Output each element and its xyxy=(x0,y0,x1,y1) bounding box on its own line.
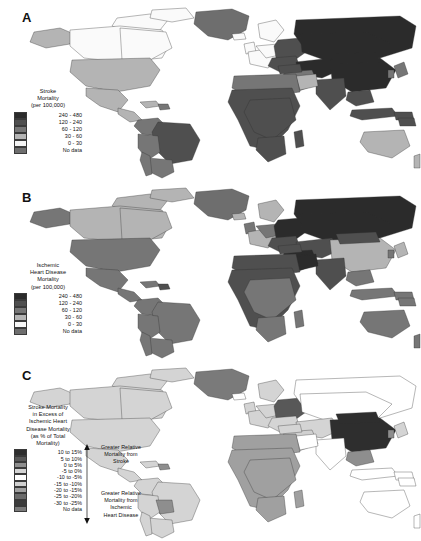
legend-item: No data xyxy=(14,147,82,154)
legend-label: 120 - 240 xyxy=(30,300,82,307)
panel-b: B xyxy=(0,180,421,360)
legend-swatch xyxy=(14,328,27,335)
legend-classes-c: 10 to 15% 5 to 10% 0 to 5% -5 to 0% -10 … xyxy=(14,449,82,512)
legend-label: 120 - 240 xyxy=(30,119,82,126)
legend-swatch xyxy=(14,133,27,140)
legend-swatch xyxy=(14,321,27,328)
legend-swatch xyxy=(14,307,27,314)
legend-item: 30 - 60 xyxy=(14,314,82,321)
legend-label: 60 - 120 xyxy=(30,307,82,314)
legend-label: No data xyxy=(30,328,82,335)
legend-title-a: Stroke Mortality (per 100,000) xyxy=(14,88,82,110)
legend-label: No data xyxy=(30,506,82,512)
legend-swatch xyxy=(14,126,27,133)
legend-item: No data xyxy=(14,506,82,512)
legend-swatch xyxy=(14,119,27,126)
legend-item: 240 - 480 xyxy=(14,112,82,119)
legend-title-c: Stroke Mortality in Excess of Ischemic H… xyxy=(14,404,82,447)
legend-label: 30 - 60 xyxy=(30,133,82,140)
legend-classes-b: 240 - 480 120 - 240 60 - 120 30 - 60 0 -… xyxy=(14,293,82,336)
legend-label: No data xyxy=(30,147,82,154)
legend-swatch xyxy=(14,506,27,512)
panel-a: A xyxy=(0,0,421,180)
legend-b: Ischemic Heart Disease Mortality (per 10… xyxy=(14,262,82,335)
legend-label: 30 - 60 xyxy=(30,314,82,321)
legend-item: 0 - 30 xyxy=(14,321,82,328)
legend-item: 0 - 30 xyxy=(14,140,82,147)
legend-item: No data xyxy=(14,328,82,335)
legend-item: 120 - 240 xyxy=(14,300,82,307)
legend-item: 60 - 120 xyxy=(14,307,82,314)
legend-label: 240 - 480 xyxy=(30,112,82,119)
legend-item: 60 - 120 xyxy=(14,126,82,133)
legend-label: 0 - 30 xyxy=(30,321,82,328)
legend-item: 30 - 60 xyxy=(14,133,82,140)
legend-item: 240 - 480 xyxy=(14,293,82,300)
legend-label: 0 - 30 xyxy=(30,140,82,147)
legend-swatch xyxy=(14,293,27,300)
legend-label: 60 - 120 xyxy=(30,126,82,133)
legend-c: Stroke Mortality in Excess of Ischemic H… xyxy=(14,404,82,512)
annotation-stroke: Greater Relative Mortality from Stroke xyxy=(92,444,150,466)
annotation-ihd: Greater Relative Mortality from Ischemic… xyxy=(92,490,150,519)
legend-swatch xyxy=(14,314,27,321)
legend-swatch xyxy=(14,300,27,307)
legend-item: 120 - 240 xyxy=(14,119,82,126)
legend-swatch xyxy=(14,140,27,147)
panel-c: C xyxy=(0,360,421,540)
legend-title-b: Ischemic Heart Disease Mortality (per 10… xyxy=(14,262,82,291)
legend-swatch xyxy=(14,147,27,154)
direction-arrow-icon xyxy=(82,444,92,524)
legend-classes-a: 240 - 480 120 - 240 60 - 120 30 - 60 0 -… xyxy=(14,112,82,155)
legend-label: 240 - 480 xyxy=(30,293,82,300)
legend-a: Stroke Mortality (per 100,000) 240 - 480… xyxy=(14,88,82,154)
legend-swatch xyxy=(14,112,27,119)
